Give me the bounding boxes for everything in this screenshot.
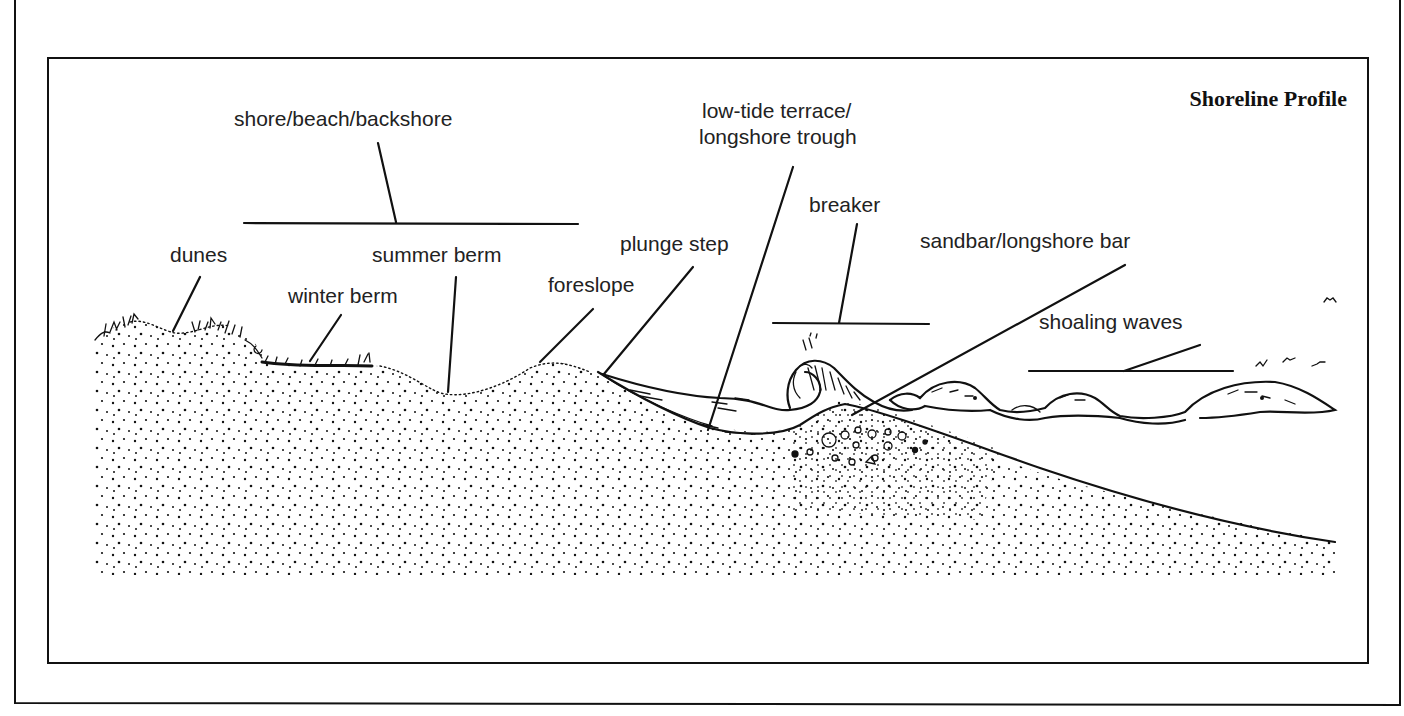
label-foreslope: foreslope bbox=[548, 273, 634, 296]
label-low-tide-terrace: low-tide terrace/ bbox=[702, 99, 852, 122]
beach-sand-body bbox=[95, 321, 1335, 575]
figure-title: Shoreline Profile bbox=[1190, 86, 1348, 111]
label-longshore-trough: longshore trough bbox=[699, 125, 857, 148]
label-dunes: dunes bbox=[170, 243, 227, 266]
sandbar-fine-sand bbox=[790, 402, 1000, 520]
winter-berm-leader bbox=[310, 315, 341, 361]
low-tide-leader bbox=[708, 167, 793, 430]
label-sandbar: sandbar/longshore bar bbox=[920, 229, 1130, 252]
label-breaker: breaker bbox=[809, 193, 880, 216]
birds-icon bbox=[1256, 298, 1336, 366]
label-shore-beach-backshore: shore/beach/backshore bbox=[234, 107, 452, 130]
label-winter-berm: winter berm bbox=[287, 284, 398, 307]
breaker-bracket bbox=[773, 224, 929, 324]
label-summer-berm: summer berm bbox=[372, 243, 502, 266]
summer-berm-leader bbox=[448, 277, 456, 392]
shoaling-bracket bbox=[1029, 345, 1233, 371]
shoaling-waves bbox=[890, 382, 1335, 424]
shoreline-profile-diagram: Shoreline Profile bbox=[0, 0, 1404, 716]
label-plunge-step: plunge step bbox=[620, 232, 729, 255]
label-shoaling-waves: shoaling waves bbox=[1039, 310, 1183, 333]
foreslope-leader bbox=[540, 309, 593, 362]
shore-bracket bbox=[244, 143, 578, 224]
dunes-leader bbox=[173, 277, 200, 331]
sandbar-leader bbox=[852, 265, 1125, 415]
